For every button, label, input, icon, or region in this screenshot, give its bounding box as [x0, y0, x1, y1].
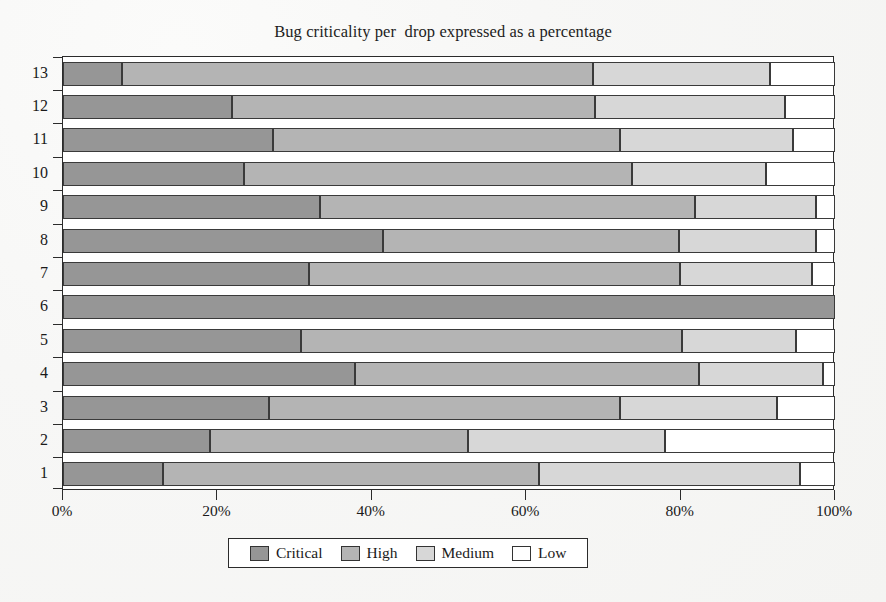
- bar-row: [63, 95, 833, 119]
- y-tick-mark-8: [53, 224, 62, 225]
- bar-row: [63, 295, 833, 319]
- x-axis: 0%20%40%60%80%100%: [62, 490, 834, 530]
- bar-row: [63, 162, 833, 186]
- y-tick-mark-1: [53, 457, 62, 458]
- y-tick-label-13: 13: [32, 64, 48, 82]
- bar-segment-medium: [699, 362, 823, 386]
- chart-title: Bug criticality per drop expressed as a …: [0, 22, 886, 42]
- bar-segment-low: [793, 128, 835, 152]
- bar-segment-medium: [682, 329, 796, 353]
- x-tick-mark-80%: [680, 490, 681, 500]
- y-tick-label-9: 9: [40, 197, 48, 215]
- y-tick-label-8: 8: [40, 231, 48, 249]
- bar-segment-low: [796, 329, 835, 353]
- legend-swatch-high: [341, 546, 360, 561]
- bar-segment-critical: [63, 429, 210, 453]
- bar-row: [63, 362, 833, 386]
- x-tick-label-0%: 0%: [52, 502, 73, 520]
- bar-segment-low: [777, 396, 835, 420]
- x-tick-label-80%: 80%: [665, 502, 693, 520]
- bar-segment-low: [766, 162, 835, 186]
- y-tick-label-5: 5: [40, 331, 48, 349]
- bar-segment-high: [122, 62, 594, 86]
- y-tick-mark-4: [53, 357, 62, 358]
- x-tick-label-60%: 60%: [511, 502, 539, 520]
- legend-swatch-critical: [250, 546, 269, 561]
- bar-segment-medium: [679, 229, 816, 253]
- y-tick-mark-9: [53, 190, 62, 191]
- y-tick-mark-6: [53, 290, 62, 291]
- y-tick-label-10: 10: [32, 164, 48, 182]
- y-tick-label-1: 1: [40, 464, 48, 482]
- bar-segment-low: [816, 229, 835, 253]
- bar-segment-high: [244, 162, 632, 186]
- bar-row: [63, 329, 833, 353]
- bar-segment-critical: [63, 362, 355, 386]
- y-tick-mark-axis-end: [53, 488, 62, 489]
- bar-segment-high: [232, 95, 595, 119]
- bar-segment-low: [812, 262, 835, 286]
- bar-segment-high: [355, 362, 699, 386]
- y-tick-label-3: 3: [40, 398, 48, 416]
- bar-segment-high: [273, 128, 620, 152]
- y-tick-mark-5: [53, 324, 62, 325]
- legend-entry-low[interactable]: Low: [512, 544, 566, 562]
- bar-row: [63, 128, 833, 152]
- legend-swatch-low: [512, 546, 531, 561]
- bar-row: [63, 229, 833, 253]
- legend-entry-critical[interactable]: Critical: [250, 544, 323, 562]
- bar-segment-low: [823, 362, 835, 386]
- bar-segment-medium: [595, 95, 785, 119]
- bar-segment-low: [665, 429, 835, 453]
- y-tick-label-2: 2: [40, 431, 48, 449]
- y-tick-mark-2: [53, 424, 62, 425]
- bar-segment-high: [320, 195, 695, 219]
- y-tick-label-11: 11: [33, 130, 48, 148]
- bar-segment-critical: [63, 295, 835, 319]
- bar-segment-medium: [593, 62, 770, 86]
- legend-swatch-medium: [416, 546, 435, 561]
- y-tick-mark-7: [53, 257, 62, 258]
- bar-segment-critical: [63, 195, 320, 219]
- legend-label-low: Low: [538, 544, 566, 562]
- bar-row: [63, 62, 833, 86]
- bar-segment-high: [163, 462, 538, 486]
- y-tick-mark-10: [53, 157, 62, 158]
- bar-segment-medium: [620, 128, 792, 152]
- legend-entry-high[interactable]: High: [341, 544, 398, 562]
- bar-segment-critical: [63, 462, 163, 486]
- y-tick-mark-3: [53, 391, 62, 392]
- legend-label-medium: Medium: [442, 544, 495, 562]
- x-tick-label-40%: 40%: [357, 502, 385, 520]
- bar-segment-medium: [539, 462, 801, 486]
- y-tick-label-4: 4: [40, 364, 48, 382]
- legend-label-critical: Critical: [276, 544, 323, 562]
- x-tick-label-100%: 100%: [816, 502, 852, 520]
- y-tick-label-7: 7: [40, 264, 48, 282]
- y-tick-label-6: 6: [40, 297, 48, 315]
- y-tick-mark-12: [53, 90, 62, 91]
- bar-segment-critical: [63, 396, 269, 420]
- bar-segment-high: [309, 262, 680, 286]
- x-tick-mark-40%: [371, 490, 372, 500]
- bars-layer: [63, 57, 833, 489]
- y-tick-mark-11: [53, 123, 62, 124]
- bar-segment-medium: [680, 262, 812, 286]
- x-tick-label-20%: 20%: [202, 502, 230, 520]
- bar-segment-medium: [620, 396, 777, 420]
- bar-segment-high: [210, 429, 468, 453]
- bar-segment-low: [785, 95, 835, 119]
- bar-segment-low: [770, 62, 835, 86]
- y-tick-mark-13: [53, 57, 62, 58]
- legend-label-high: High: [367, 544, 398, 562]
- bar-segment-critical: [63, 62, 122, 86]
- bar-segment-critical: [63, 229, 383, 253]
- bar-segment-critical: [63, 329, 301, 353]
- x-tick-mark-20%: [216, 490, 217, 500]
- bar-segment-critical: [63, 162, 244, 186]
- x-tick-mark-100%: [834, 490, 835, 500]
- chart-legend: CriticalHighMediumLow: [228, 538, 588, 568]
- y-axis: 13121110987654321: [0, 56, 62, 490]
- bar-row: [63, 429, 833, 453]
- legend-entry-medium[interactable]: Medium: [416, 544, 495, 562]
